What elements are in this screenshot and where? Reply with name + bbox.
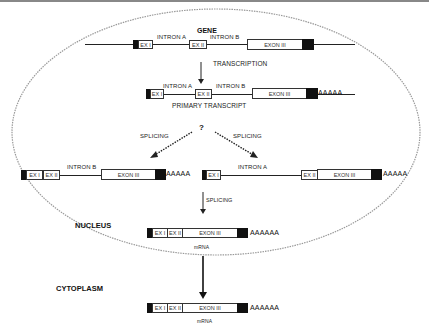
left-intron-b-label: INTRON B [67,164,96,170]
cytoplasm-mrna-poly-a-tail: AAAAAA [250,304,279,311]
left-strand [60,175,105,176]
left-exon-3: EXON III [101,169,156,180]
gene-exon-1: EX I [138,40,153,49]
right-exon-2: EX II [301,170,318,180]
nucleus-mrna-poly-a-tail: AAAAAA [250,229,279,236]
gene-3prime-block [302,39,314,50]
right-poly-a-tail: AAAAA [383,170,407,177]
splicing-right-label: SPLICING [233,133,262,139]
gene-exon-2: EX II [189,40,207,49]
nucleus-mrna-caption: mRNA [194,244,209,250]
nucleus-label: NUCLEUS [75,221,111,230]
cytoplasm-mrna-exon-2: EX II [167,303,183,313]
cytoplasm-mrna-exon-3: EXON III [182,303,238,313]
splicing-question-mark: ? [199,123,204,132]
gene-title: GENE [197,27,217,34]
right-exon-3: EXON III [317,169,372,180]
right-intron-a-label: INTRON A [238,164,267,170]
cytoplasm-mrna-exon-1: EX I [152,303,168,313]
cytoplasm-label: CYTOPLASM [56,284,103,293]
cytoplasm-mrna-3prime-block [237,303,248,313]
primary-exon-3: EXON III [252,88,307,99]
nucleus-mrna-3prime-block [237,228,248,238]
left-exon-2: EX II [43,170,60,180]
splicing-left-label: SPLICING [140,133,169,139]
nucleus-mrna-exon-2: EX II [167,228,183,238]
primary-exon-2: EX II [195,89,212,99]
gene-exon-3: EXON III [247,39,303,50]
primary-intron-b-label: INTRON B [216,83,245,89]
right-exon-1: EX I [206,170,221,180]
left-3prime-block [155,169,166,180]
primary-exon-1: EX I [150,89,164,99]
right-splicing-label: SPLICING [206,197,232,203]
primary-intron-a-label: INTRON A [163,83,192,89]
nucleus-membrane [0,0,429,331]
right-strand [220,175,302,176]
right-3prime-block [371,169,382,180]
gene-intron-a-label: INTRON A [157,34,186,40]
gene-intron-b-label: INTRON B [210,34,239,40]
primary-3prime-block [306,88,318,99]
left-poly-a-tail: AAAAA [166,170,190,177]
left-exon-1: EX I [26,170,43,180]
transcription-label: TRANSCRIPTION [213,60,267,67]
gene-strand [85,44,355,45]
primary-poly-a-tail: AAAAA [318,89,342,96]
primary-transcript-caption: PRIMARY TRANSCRIPT [172,102,246,109]
nucleus-mrna-exon-3: EXON III [182,228,238,238]
nucleus-mrna-exon-1: EX I [152,228,168,238]
cytoplasm-mrna-caption: mRNA [197,318,212,324]
